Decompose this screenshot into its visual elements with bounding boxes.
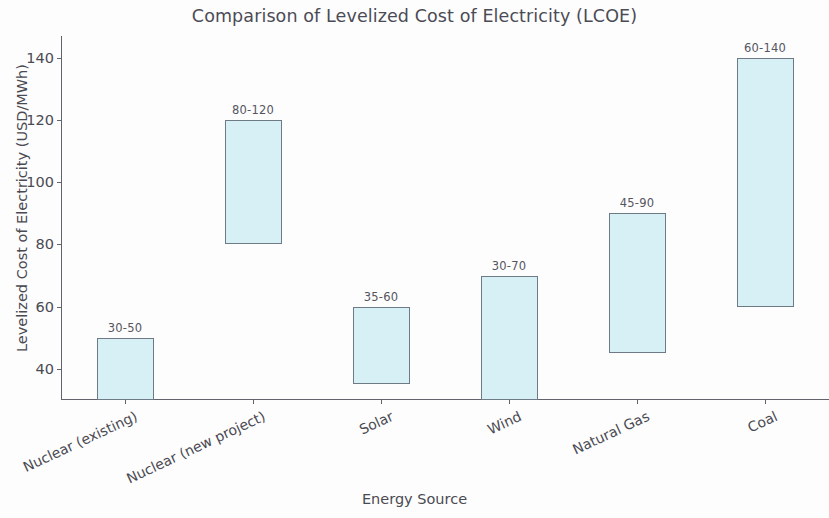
x-axis-tick-mark (637, 399, 638, 404)
bar[interactable] (97, 338, 154, 400)
bar-value-label: 30-50 (108, 321, 142, 335)
y-axis-tick-label: 60 (36, 299, 54, 315)
y-axis-tick-label: 100 (26, 174, 54, 190)
y-axis-tick-mark (57, 58, 61, 59)
y-axis-tick-mark (57, 244, 61, 245)
bar-value-label: 30-70 (492, 259, 526, 273)
bar[interactable] (225, 120, 282, 244)
y-axis-spine (61, 36, 62, 400)
y-axis-tick-mark (57, 182, 61, 183)
y-axis-tick-mark (57, 120, 61, 121)
bar[interactable] (609, 213, 666, 353)
chart-title: Comparison of Levelized Cost of Electric… (0, 6, 829, 26)
bar-value-label: 45-90 (620, 196, 654, 210)
x-axis-tick-mark (765, 399, 766, 404)
y-axis-tick-mark (57, 307, 61, 308)
y-axis-tick-label: 140 (26, 50, 54, 66)
chart-figure: Comparison of Levelized Cost of Electric… (0, 0, 829, 518)
x-axis-category-label: Coal (745, 408, 780, 436)
bar-value-label: 60-140 (744, 41, 786, 55)
bar[interactable] (353, 307, 410, 385)
y-axis-title: Levelized Cost of Electricity (USD/MWh) (14, 8, 30, 408)
bar[interactable] (481, 276, 538, 400)
x-axis-category-label: Nuclear (new project) (124, 408, 268, 486)
x-axis-category-label: Wind (485, 408, 524, 437)
x-axis-category-label: Natural Gas (570, 408, 652, 457)
x-axis-tick-mark (381, 399, 382, 404)
y-axis-tick-label: 40 (36, 361, 54, 377)
x-axis-category-label: Solar (357, 408, 396, 438)
bar-value-label: 35-60 (364, 290, 398, 304)
y-axis-tick-mark (57, 369, 61, 370)
x-axis-category-label: Nuclear (existing) (20, 408, 139, 475)
plot-area: 406080100120140 30-5080-12035-6030-7045-… (61, 36, 829, 400)
x-axis-tick-mark (253, 399, 254, 404)
y-axis-tick-label: 80 (36, 236, 54, 252)
bar[interactable] (737, 58, 794, 307)
y-axis-tick-label: 120 (26, 112, 54, 128)
x-axis-title: Energy Source (0, 491, 829, 507)
x-axis-spine (61, 399, 829, 400)
bar-value-label: 80-120 (232, 103, 274, 117)
